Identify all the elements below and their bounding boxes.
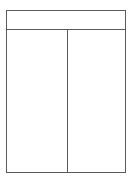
table-header [7, 11, 125, 30]
right-column [68, 30, 125, 172]
left-column [7, 30, 68, 172]
table-frame [6, 10, 126, 173]
